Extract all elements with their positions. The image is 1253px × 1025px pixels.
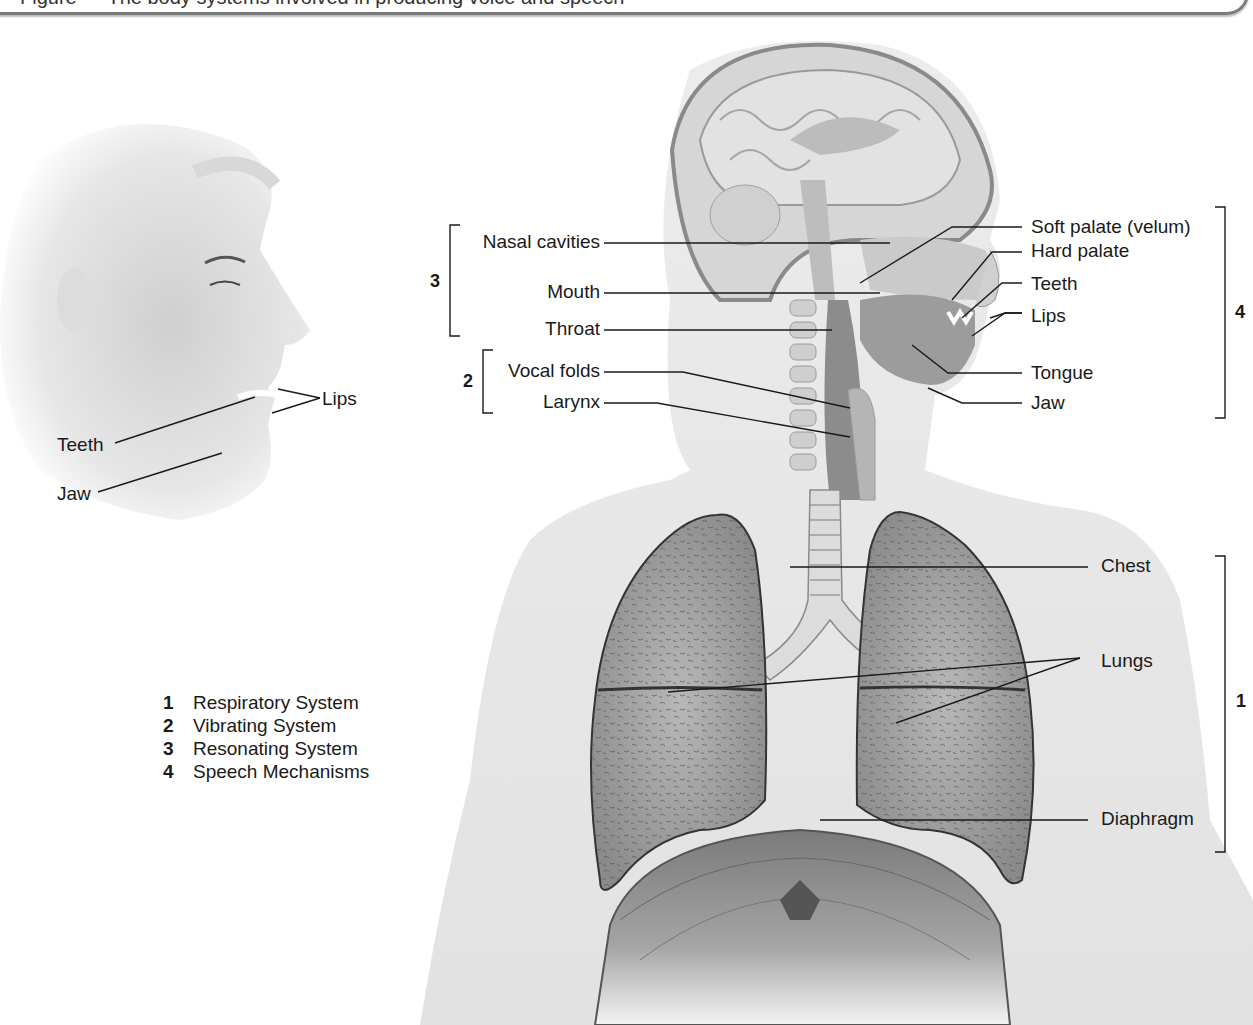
label-diaphragm: Diaphragm [1101, 808, 1194, 830]
label-chest: Chest [1101, 555, 1151, 577]
bracket-number-1: 1 [1236, 690, 1246, 712]
bracket-number-2: 2 [463, 370, 473, 392]
legend-number: 4 [163, 760, 193, 783]
legend-label: Resonating System [193, 737, 358, 760]
face-label-lips: Lips [322, 388, 357, 410]
legend-label: Speech Mechanisms [193, 760, 369, 783]
label-lips: Lips [1031, 305, 1066, 327]
label-vocal-folds: Vocal folds [508, 360, 600, 382]
label-lungs: Lungs [1101, 650, 1153, 672]
legend-number: 3 [163, 737, 193, 760]
label-teeth: Teeth [1031, 273, 1077, 295]
legend-item: 3Resonating System [163, 737, 369, 760]
legend-item: 4Speech Mechanisms [163, 760, 369, 783]
label-hard-palate: Hard palate [1031, 240, 1129, 262]
label-soft-palate: Soft palate (velum) [1031, 216, 1190, 238]
legend-number: 1 [163, 691, 193, 714]
bracket-number-4: 4 [1235, 301, 1245, 323]
legend-number: 2 [163, 714, 193, 737]
legend-item: 1Respiratory System [163, 691, 369, 714]
legend-label: Vibrating System [193, 714, 336, 737]
face-label-teeth: Teeth [57, 434, 103, 456]
label-nasal-cavities: Nasal cavities [483, 231, 600, 253]
bracket-number-3: 3 [430, 270, 440, 292]
legend-label: Respiratory System [193, 691, 359, 714]
label-mouth: Mouth [547, 281, 600, 303]
legend-item: 2Vibrating System [163, 714, 369, 737]
label-tongue: Tongue [1031, 362, 1093, 384]
systems-legend: 1Respiratory System 2Vibrating System 3R… [163, 691, 369, 783]
label-larynx: Larynx [543, 391, 600, 413]
face-profile-illustration [0, 124, 310, 520]
label-throat: Throat [545, 318, 600, 340]
label-jaw: Jaw [1031, 392, 1065, 414]
anatomy-illustration [0, 0, 1253, 1025]
face-label-jaw: Jaw [57, 483, 91, 505]
